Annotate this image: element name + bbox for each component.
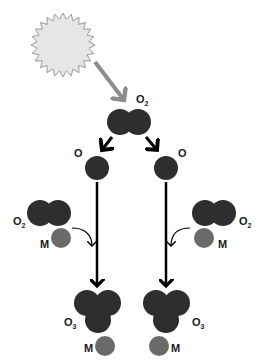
o-left-label: O: [74, 147, 83, 159]
o-right-label: O: [178, 147, 187, 159]
o-atom-left: [85, 156, 109, 180]
m-third-body-bottom-right: [149, 336, 169, 356]
o3-molecule-right: [143, 290, 190, 333]
arrow-o2-to-o-left: [102, 137, 112, 150]
o2-molecule-top: [107, 109, 151, 135]
curved-arrow-right: [171, 228, 190, 246]
m-third-body-left: [51, 228, 71, 248]
o2-right-label: O2: [239, 215, 252, 229]
curved-arrow-left: [72, 228, 92, 246]
o2-top-label: O2: [136, 93, 149, 107]
m-bottom-right-label: M: [171, 342, 180, 354]
m-right-label: M: [218, 238, 227, 250]
sun-icon: [31, 13, 95, 77]
o-atom-right: [154, 156, 178, 180]
m-bottom-left-label: M: [84, 342, 93, 354]
arrow-o2-to-o-right: [146, 137, 157, 150]
ozone-formation-diagram: O2 O O O2 M O2 M O3 M O3 M: [0, 0, 263, 363]
o2-left-label: O2: [13, 215, 26, 229]
uv-light-arrow: [95, 62, 124, 100]
m-left-label: M: [40, 238, 49, 250]
m-third-body-right: [194, 228, 214, 248]
o3-left-label: O3: [64, 316, 77, 330]
m-third-body-bottom-left: [95, 336, 115, 356]
o2-molecule-left: [27, 200, 71, 226]
o3-right-label: O3: [192, 316, 205, 330]
o3-molecule-left: [74, 290, 121, 333]
o2-molecule-right: [192, 200, 236, 226]
